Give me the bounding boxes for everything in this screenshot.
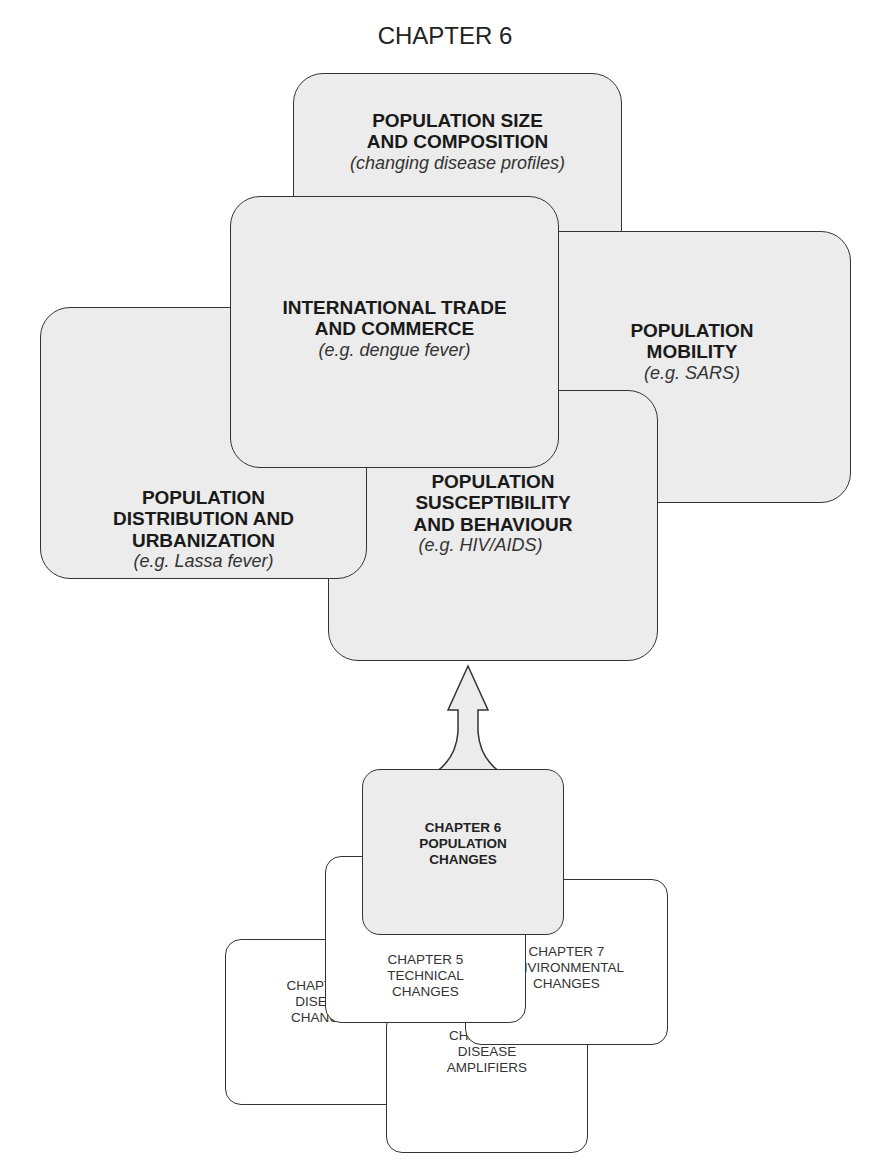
chapter-label-line: CHAPTER 6 — [363, 820, 563, 836]
factor-title-line: POPULATION SIZE — [294, 110, 621, 131]
factor-title-line: SUSCEPTIBILITY — [329, 492, 657, 513]
factor-title-line: POPULATION — [534, 320, 850, 341]
factor-example: (e.g. dengue fever) — [231, 340, 558, 360]
factor-title-line: AND BEHAVIOUR — [329, 514, 657, 535]
factor-box-trade: INTERNATIONAL TRADE AND COMMERCE (e.g. d… — [230, 196, 559, 468]
chapter-label-line: POPULATION — [363, 836, 563, 852]
factor-title-line: POPULATION — [329, 471, 657, 492]
diagram-title: CHAPTER 6 — [0, 22, 890, 50]
chapter-label-line: CHANGES — [363, 852, 563, 868]
factor-title-line: INTERNATIONAL TRADE — [231, 297, 558, 318]
factor-title-line: AND COMPOSITION — [294, 131, 621, 152]
factor-example: (e.g. Lassa fever) — [41, 551, 366, 571]
chapter-label-line: CHANGES — [326, 984, 525, 1000]
up-arrow-icon — [430, 662, 510, 774]
factor-example: (e.g. HIV/AIDS) — [329, 535, 632, 555]
chapter-box-6: CHAPTER 6 POPULATION CHANGES — [362, 769, 564, 935]
factor-title-line: AND COMMERCE — [231, 318, 558, 339]
chapter-label-line: TECHNICAL — [326, 968, 525, 984]
factor-title-line: MOBILITY — [534, 341, 850, 362]
chapter-label-line: DISEASE — [387, 1044, 587, 1060]
chapter-label-line: CHAPTER 5 — [326, 952, 525, 968]
factor-title-line: URBANIZATION — [41, 530, 366, 551]
factor-example: (changing disease profiles) — [294, 153, 621, 173]
factor-title-line: POPULATION — [41, 487, 366, 508]
factor-example: (e.g. SARS) — [534, 363, 850, 383]
chapter-label-line: AMPLIFIERS — [387, 1060, 587, 1076]
factor-title-line: DISTRIBUTION AND — [41, 508, 366, 529]
